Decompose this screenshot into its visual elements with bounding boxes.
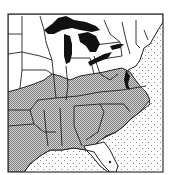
map-svg bbox=[0, 0, 169, 175]
eastern-us-map bbox=[0, 0, 169, 175]
lake-okeechobee bbox=[109, 161, 111, 163]
